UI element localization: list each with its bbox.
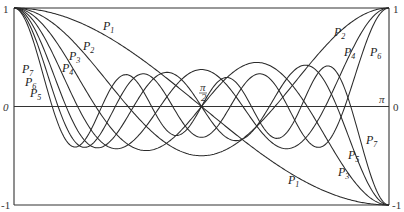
curve-p4: [14, 8, 389, 149]
label-p7: P7: [365, 133, 378, 149]
label-p2: P2: [82, 39, 94, 55]
label-p5: P5: [29, 86, 41, 102]
curve-p6: [14, 8, 389, 147]
y-tick-left-1: 1: [3, 3, 9, 15]
y-tick-right-1: 1: [393, 3, 399, 15]
legendre-polynomials-chart: 1 0 -1 1 0 -1 π π 2 P1P2P3P4P7P6P5P2P4P6…: [0, 0, 404, 212]
label-p5: P5: [347, 148, 359, 164]
label-p4: P4: [61, 61, 73, 77]
x-tick-pi: π: [379, 93, 385, 105]
label-p6: P6: [369, 45, 381, 61]
label-p3: P3: [337, 165, 349, 181]
label-p1: P1: [102, 19, 114, 35]
y-tick-right-0: 0: [393, 101, 399, 113]
y-tick-left-0: 0: [3, 101, 9, 113]
label-p1: P1: [287, 173, 299, 189]
label-p2: P2: [333, 25, 345, 41]
y-tick-left-minus1: -1: [1, 199, 10, 211]
y-tick-right-minus1: -1: [392, 199, 401, 211]
label-p3: P3: [68, 49, 80, 65]
